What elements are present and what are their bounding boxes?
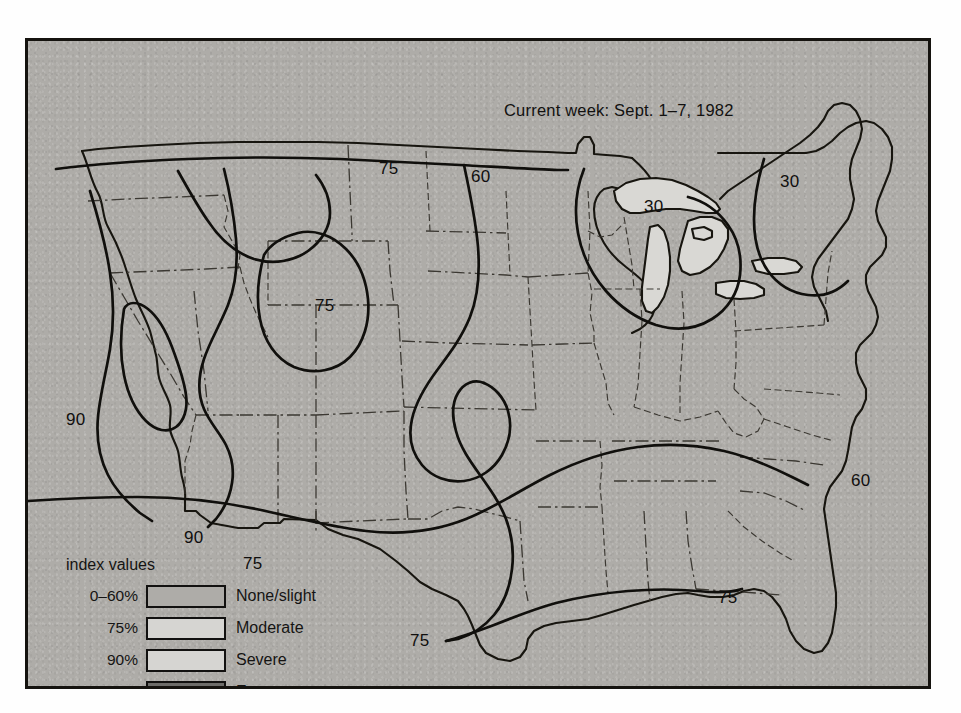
contour-label-75-texas: 75: [410, 631, 430, 651]
legend-percent: 0–60%: [61, 587, 146, 605]
legend-row: 0–60% None/slight: [61, 581, 316, 611]
legend-swatch-extreme: [146, 681, 226, 690]
legend-swatch-moderate: [146, 617, 226, 640]
contour-label-60-north: 60: [471, 167, 491, 187]
legend-label: None/slight: [226, 587, 316, 605]
figure: .coast{fill:none;stroke:#17150f;stroke-w…: [0, 0, 961, 713]
contour-label-75-north: 75: [379, 159, 399, 179]
legend-row: 99% Extreme: [61, 677, 316, 689]
contour-label-60-eastcoast: 60: [851, 471, 871, 491]
contour-label-90-westcoast: 90: [66, 410, 86, 430]
contour-label-30-northeast: 30: [780, 172, 800, 192]
contour-label-90-southwest: 90: [184, 528, 204, 548]
legend-swatch-severe: [146, 649, 226, 672]
legend-swatch-none-slight: [146, 585, 226, 608]
contour-label-75-gulf: 75: [718, 588, 738, 608]
legend-percent: 99%: [61, 683, 146, 689]
legend: index values 0–60% None/slight 75% Moder…: [61, 556, 316, 689]
legend-label: Extreme: [226, 683, 296, 689]
map-panel: .coast{fill:none;stroke:#17150f;stroke-w…: [25, 38, 931, 689]
contour-label-75-rockies: 75: [315, 296, 335, 316]
legend-label: Moderate: [226, 619, 304, 637]
legend-percent: 75%: [61, 619, 146, 637]
map-title: Current week: Sept. 1–7, 1982: [504, 101, 734, 120]
legend-label: Severe: [226, 651, 287, 669]
great-lakes: [614, 178, 802, 313]
contour-label-30-superior: 30: [644, 197, 664, 217]
legend-row: 90% Severe: [61, 645, 316, 675]
legend-heading: index values: [61, 556, 316, 574]
legend-percent: 90%: [61, 651, 146, 669]
legend-row: 75% Moderate: [61, 613, 316, 643]
